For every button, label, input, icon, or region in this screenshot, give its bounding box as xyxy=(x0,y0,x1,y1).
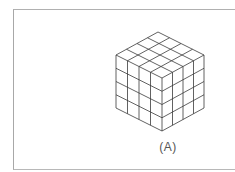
figure-label: (A) xyxy=(148,140,188,154)
cube-lines xyxy=(116,32,204,131)
isometric-cube-diagram xyxy=(0,0,235,172)
